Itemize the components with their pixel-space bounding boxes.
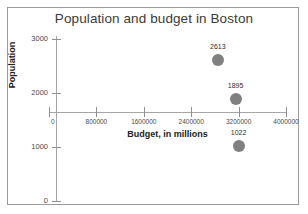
data-point[interactable] (212, 54, 224, 66)
x-tick-mark (96, 107, 97, 117)
x-tick-label: 800000 (86, 118, 108, 125)
x-tick-label: 0 (51, 118, 55, 125)
y-tick-label: 3000 (2, 34, 48, 43)
chart-container: Population and budget in Boston Populati… (0, 0, 308, 214)
data-point[interactable] (233, 140, 245, 152)
x-tick-mark (286, 107, 287, 117)
y-tick-mark (52, 39, 61, 40)
chart-border (7, 7, 299, 205)
y-tick-mark (52, 93, 61, 94)
x-tick-label: 1600000 (131, 118, 156, 125)
x-tick-label: 4000000 (273, 118, 298, 125)
x-tick-mark (49, 107, 50, 117)
data-point-label: 1022 (231, 129, 247, 136)
y-tick-mark (52, 147, 61, 148)
y-axis-line (56, 36, 57, 201)
y-tick-label: 1000 (2, 142, 48, 151)
data-point-label: 2613 (210, 43, 226, 50)
chart-title: Population and budget in Boston (0, 11, 308, 26)
data-point[interactable] (230, 93, 242, 105)
x-tick-label: 2400000 (179, 118, 204, 125)
x-tick-mark (191, 107, 192, 117)
data-point-label: 1895 (228, 82, 244, 89)
y-tick-label: 0 (2, 196, 48, 205)
x-axis-title: Budget, in millions (49, 129, 286, 139)
x-tick-mark (144, 107, 145, 117)
y-tick-label: 2000 (2, 88, 48, 97)
x-tick-mark (239, 107, 240, 117)
y-tick-mark (52, 201, 61, 202)
x-axis-line (49, 112, 286, 113)
x-tick-label: 3200000 (226, 118, 251, 125)
